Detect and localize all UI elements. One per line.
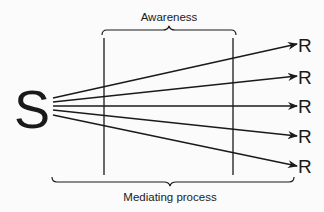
awareness-brace <box>102 26 236 35</box>
response-label-2: R <box>298 67 312 88</box>
arrows <box>53 44 297 166</box>
mediating-brace <box>52 177 294 186</box>
arrow-1 <box>53 44 297 98</box>
mediating-process-label: Mediating process <box>123 191 217 203</box>
response-label-5: R <box>298 156 312 177</box>
response-label-4: R <box>298 126 312 147</box>
response-label-3: R <box>298 96 312 117</box>
stimulus-label: S <box>14 79 50 139</box>
awareness-label: Awareness <box>141 11 198 23</box>
arrow-2 <box>53 76 297 102</box>
response-label-1: R <box>298 35 312 56</box>
sr-diagram: Awareness S R R R R R Mediating process <box>0 0 324 212</box>
